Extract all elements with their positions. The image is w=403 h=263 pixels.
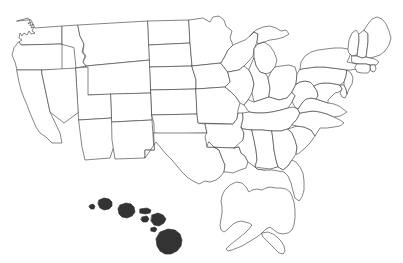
us-map-container xyxy=(0,0,403,263)
hawaii-lanai xyxy=(141,216,149,222)
hawaii-kauai xyxy=(98,198,112,210)
state-NE[interactable] xyxy=(150,66,196,90)
hawaii-niihau xyxy=(89,204,95,209)
state-CO[interactable] xyxy=(111,93,152,122)
state-WY[interactable] xyxy=(86,60,151,95)
state-AZ[interactable] xyxy=(79,118,115,160)
hawaii-oahu xyxy=(118,203,135,218)
state-KS[interactable] xyxy=(151,89,197,115)
state-CT[interactable] xyxy=(355,64,370,73)
state-MT[interactable] xyxy=(78,21,150,66)
state-OR[interactable] xyxy=(12,42,62,70)
state-SD[interactable] xyxy=(149,43,192,67)
state-ND[interactable] xyxy=(148,20,190,45)
us-map-svg xyxy=(0,0,403,263)
hawaii-molokai xyxy=(140,208,151,214)
